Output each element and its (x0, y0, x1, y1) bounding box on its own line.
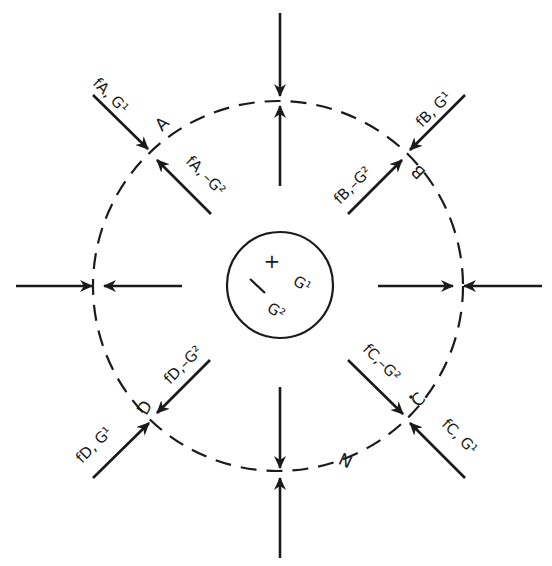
force-diagram: + G¹ G² fA, G¹ fA, –G² A fB, G¹ fB,–G² B (0, 0, 552, 566)
diagram-canvas: + G¹ G² fA, G¹ fA, –G² A fB, G¹ fB,–G² B (0, 0, 552, 566)
g1-label: G¹ (290, 272, 314, 296)
plus-sign: + (264, 249, 281, 273)
fD-minusG2-label: fD,–G² (160, 342, 206, 388)
point-A-label: A (151, 112, 174, 135)
fB-G1-label: fB, G¹ (412, 88, 455, 131)
g2-label: G² (264, 299, 288, 323)
center-minus-g2: G² (250, 279, 288, 323)
center-circle (227, 232, 333, 338)
minus-sign (250, 279, 265, 293)
point-C-label: C (407, 388, 430, 411)
center-plus-g1: + G¹ (264, 249, 315, 296)
fC-G1-label: fC, G¹ (438, 415, 481, 458)
point-B-label: B (407, 161, 429, 183)
fB-minusG2-label: fB,–G² (330, 163, 375, 208)
point-N-label: N (336, 449, 356, 473)
point-D-label: D (132, 397, 156, 418)
